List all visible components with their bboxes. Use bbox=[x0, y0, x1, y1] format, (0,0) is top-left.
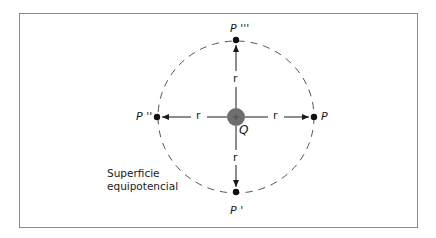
point-p-triple-prime bbox=[233, 37, 239, 43]
label-q: Q bbox=[239, 124, 248, 136]
caption-line-2: equipotencial bbox=[107, 180, 178, 193]
radius-label-right: r bbox=[273, 110, 278, 121]
point-p-double-prime bbox=[154, 114, 160, 120]
radius-label-up: r bbox=[233, 73, 238, 84]
point-p-prime bbox=[233, 189, 239, 195]
equipotential-diagram bbox=[0, 0, 436, 238]
equipotential-caption: Superficie equipotencial bbox=[107, 167, 178, 193]
point-p bbox=[311, 114, 317, 120]
caption-line-1: Superficie bbox=[107, 167, 178, 180]
label-p: P bbox=[321, 111, 328, 122]
label-p-triple-prime: P ''' bbox=[230, 23, 249, 34]
label-p-double-prime: P '' bbox=[136, 111, 152, 122]
radius-label-left: r bbox=[196, 110, 201, 121]
label-p-prime: P ' bbox=[230, 205, 243, 216]
radius-label-down: r bbox=[233, 152, 238, 163]
